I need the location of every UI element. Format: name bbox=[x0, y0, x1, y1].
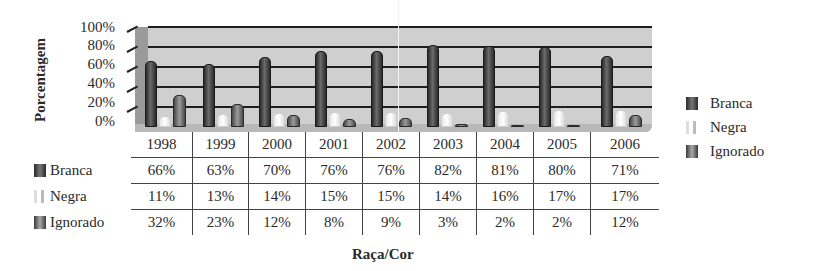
bar-ignorado-2004 bbox=[511, 125, 524, 127]
table-row-branca: Branca 66% 63% 70% 76% 76% 82% 81% 80% 7… bbox=[0, 158, 659, 184]
y-tick-100: 100% bbox=[80, 20, 115, 35]
bar-branca-2000 bbox=[259, 57, 271, 127]
bar-branca-2004 bbox=[483, 46, 495, 127]
plot-back-wall bbox=[148, 27, 652, 127]
branca-swatch-icon bbox=[686, 97, 698, 110]
year-header: 2006 bbox=[591, 132, 660, 158]
year-header: 2004 bbox=[477, 132, 534, 158]
bar-ignorado-2005 bbox=[567, 125, 580, 127]
bar-negra-2004 bbox=[497, 111, 509, 127]
legend-item-negra: Negra bbox=[686, 118, 764, 142]
bar-ignorado-2001 bbox=[343, 119, 356, 127]
table-row-ignorado: Ignorado 32% 23% 12% 8% 9% 3% 2% 2% 12% bbox=[0, 210, 659, 236]
data-table: 1998 1999 2000 2001 2002 2003 2004 2005 … bbox=[0, 132, 659, 235]
bar-branca-1998 bbox=[145, 61, 157, 127]
bar-negra-2002 bbox=[385, 112, 397, 127]
bar-negra-2006 bbox=[615, 110, 627, 127]
bar-branca-2001 bbox=[315, 51, 327, 127]
x-axis-title: Raça/Cor bbox=[352, 246, 414, 263]
gridline bbox=[148, 66, 652, 68]
bar-branca-2006 bbox=[601, 56, 613, 127]
negra-swatch-icon bbox=[34, 190, 46, 203]
bar-ignorado-2002 bbox=[399, 118, 412, 127]
bar-negra-2000 bbox=[273, 113, 285, 127]
year-header: 1998 bbox=[131, 132, 193, 158]
year-header: 2003 bbox=[420, 132, 477, 158]
gridline bbox=[148, 26, 652, 28]
y-axis-title: Porcentagem bbox=[30, 30, 50, 130]
ignorado-swatch-icon bbox=[686, 145, 698, 158]
y-tick-0: 0% bbox=[95, 114, 115, 129]
y-tick-60: 60% bbox=[88, 57, 116, 72]
year-header: 1999 bbox=[193, 132, 249, 158]
bar-negra-1998 bbox=[159, 116, 171, 127]
legend: Branca Negra Ignorado bbox=[686, 94, 764, 166]
bar-ignorado-2000 bbox=[287, 115, 300, 127]
bar-ignorado-1998 bbox=[173, 95, 186, 127]
bar-negra-2003 bbox=[441, 113, 453, 127]
bar-ignorado-2006 bbox=[629, 115, 642, 127]
bar-negra-2005 bbox=[553, 110, 565, 127]
year-header: 2002 bbox=[363, 132, 420, 158]
bar-branca-2002 bbox=[371, 51, 383, 127]
y-tick-20: 20% bbox=[88, 95, 116, 110]
bar-negra-1999 bbox=[217, 114, 229, 127]
year-header: 2000 bbox=[249, 132, 306, 158]
ignorado-swatch-icon bbox=[34, 216, 46, 229]
y-tick-80: 80% bbox=[88, 38, 116, 53]
bar-ignorado-2003 bbox=[455, 124, 468, 127]
y-tick-40: 40% bbox=[88, 76, 116, 91]
legend-item-branca: Branca bbox=[686, 94, 764, 118]
legend-item-ignorado: Ignorado bbox=[686, 142, 764, 166]
bar-ignorado-1999 bbox=[231, 104, 244, 127]
gridline bbox=[148, 46, 652, 48]
bar-branca-2003 bbox=[427, 45, 439, 127]
bar-branca-1999 bbox=[203, 64, 215, 127]
branca-swatch-icon bbox=[34, 164, 46, 177]
year-header: 2005 bbox=[534, 132, 591, 158]
bar-negra-2001 bbox=[329, 112, 341, 127]
negra-swatch-icon bbox=[686, 121, 698, 134]
bar-branca-2005 bbox=[539, 47, 551, 127]
scan-divider bbox=[398, 0, 399, 150]
gridline bbox=[148, 106, 652, 108]
year-header: 2001 bbox=[306, 132, 363, 158]
table-row-negra: Negra 11% 13% 14% 15% 15% 14% 16% 17% 17… bbox=[0, 184, 659, 210]
gridline bbox=[148, 86, 652, 88]
